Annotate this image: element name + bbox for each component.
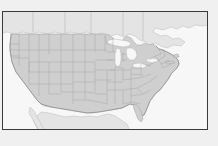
united-states-landmass — [10, 34, 179, 116]
map-frame — [2, 11, 208, 130]
map-figure — [0, 0, 218, 146]
us-map-svg[interactable] — [3, 12, 207, 129]
lake-michigan — [115, 48, 121, 67]
